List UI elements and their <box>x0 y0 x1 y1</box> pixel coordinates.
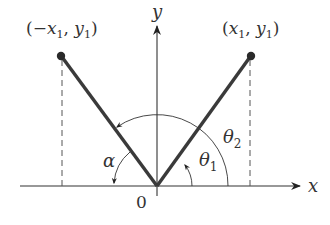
theta2-arc <box>117 115 228 186</box>
point-right-label: (x1, y1) <box>222 18 279 41</box>
theta1-label: θ1 <box>199 149 217 174</box>
theta2-label: θ2 <box>223 126 241 151</box>
origin-label: 0 <box>136 192 147 212</box>
x-axis-label: x <box>308 175 318 196</box>
point-left <box>57 52 65 60</box>
diagram-canvas: (−x1, y1) (x1, y1) y x 0 θ1 θ2 α <box>0 0 330 225</box>
alpha-label: α <box>103 150 115 171</box>
theta1-arc <box>185 165 192 186</box>
alpha-arc <box>114 152 130 183</box>
point-right <box>247 52 255 60</box>
point-left-label: (−x1, y1) <box>26 18 98 41</box>
y-axis-label: y <box>151 1 163 22</box>
